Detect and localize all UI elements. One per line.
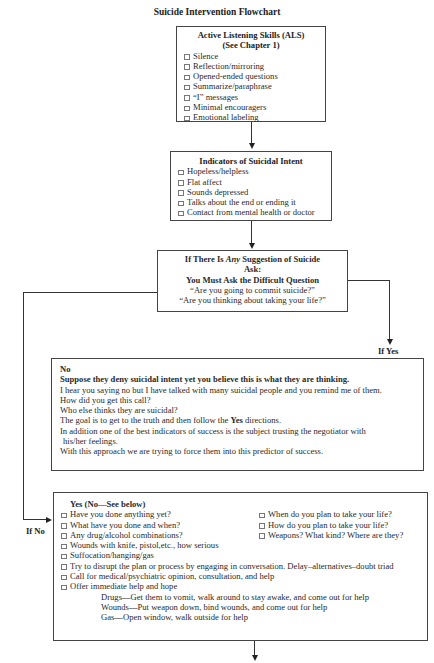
sub-item: Gas—Open window, walk outside for help xyxy=(60,612,421,622)
list-item: Summarize/paraphrase xyxy=(183,81,319,91)
list-item: Minimal encouragers xyxy=(183,102,319,112)
als-subheading: (See Chapter 1) xyxy=(183,40,319,50)
list-item: Call for medical/psychiatric opinion, co… xyxy=(60,571,421,581)
if-yes-label: If Yes xyxy=(378,346,398,356)
connector-line xyxy=(254,641,255,656)
no-goal: The goal is to get to the truth and then… xyxy=(60,415,415,425)
list-item: Silence xyxy=(183,51,319,61)
no-connector-v xyxy=(23,292,24,520)
question-heading: If There Is Any Suggestion of Suicide xyxy=(162,254,343,264)
list-item: Suffocation/hanging/gas xyxy=(60,550,421,560)
arrow-down-icon xyxy=(249,243,255,249)
question-subheading: You Must Ask the Difficult Question xyxy=(162,275,343,285)
yes-left-list: Have you done anything yet? What have yo… xyxy=(60,509,258,540)
no-connector-h2 xyxy=(23,519,47,520)
yes-list: Wounds with knife, pistol,etc., how seri… xyxy=(60,540,421,591)
yes-box: Yes (No—See below) Have you done anythin… xyxy=(53,492,428,641)
list-item: Have you done anything yet? xyxy=(60,509,258,519)
list-item: Opened-ended questions xyxy=(183,71,319,81)
list-item: Any drug/alcohol combinations? xyxy=(60,530,258,540)
als-box: Active Listening Skills (ALS) (See Chapt… xyxy=(176,26,326,122)
als-list: Silence Reflection/mirroring Opened-ende… xyxy=(183,51,319,123)
list-item: Flat affect xyxy=(177,177,325,187)
no-subheading: Suppose they deny suicidal intent yet yo… xyxy=(60,374,415,384)
list-item: Try to disrupt the plan or process by en… xyxy=(60,561,421,571)
arrow-right-icon xyxy=(46,517,52,523)
als-heading: Active Listening Skills (ALS) xyxy=(183,30,319,40)
no-line: How did you get this call? xyxy=(60,395,415,405)
no-line: his/her feelings. xyxy=(60,436,415,446)
if-no-label: If No xyxy=(26,526,45,536)
yes-connector-h xyxy=(348,280,390,281)
yes-heading: Yes (No—See below) xyxy=(60,499,421,509)
arrow-down-icon xyxy=(387,339,393,345)
no-box: No Suppose they deny suicidal intent yet… xyxy=(51,358,424,471)
no-line: With this approach we are trying to forc… xyxy=(60,446,415,456)
list-item: Weapons? What kind? Where are they? xyxy=(258,530,403,540)
no-heading: No xyxy=(60,364,415,374)
list-item: Sounds depressed xyxy=(177,187,325,197)
list-item: Reflection/mirroring xyxy=(183,61,319,71)
list-item: Talks about the end or ending it xyxy=(177,197,325,207)
list-item: Offer immediate help and hope xyxy=(60,581,421,591)
no-connector-h xyxy=(23,292,157,293)
no-line: I hear you saying no but I have talked w… xyxy=(60,385,415,395)
indicators-heading: Indicators of Suicidal Intent xyxy=(177,156,325,166)
list-item: “I” messages xyxy=(183,92,319,102)
connector-line xyxy=(251,122,252,144)
no-line: In addition one of the best indicators o… xyxy=(60,426,415,436)
list-item: How do you plan to take your life? xyxy=(258,520,403,530)
question-1: “Are you going to commit suicide?” xyxy=(162,285,343,295)
sub-item: Drugs—Get them to vomit, walk around to … xyxy=(60,592,421,602)
question-ask: Ask: xyxy=(162,264,343,274)
connector-line xyxy=(251,221,252,244)
list-item: Hopeless/helpless xyxy=(177,166,325,176)
list-item: Wounds with knife, pistol,etc., how seri… xyxy=(60,540,421,550)
no-line: Who else thinks they are suicidal? xyxy=(60,405,415,415)
yes-connector-v xyxy=(389,280,390,340)
flowchart-title: Suicide Intervention Flowchart xyxy=(0,7,434,17)
indicators-list: Hopeless/helpless Flat affect Sounds dep… xyxy=(177,166,325,217)
arrow-down-icon xyxy=(252,655,258,661)
list-item: Contact from mental health or doctor xyxy=(177,207,325,217)
question-box: If There Is Any Suggestion of Suicide As… xyxy=(157,250,348,312)
indicators-box: Indicators of Suicidal Intent Hopeless/h… xyxy=(170,151,332,221)
list-item: What have you done and when? xyxy=(60,520,258,530)
sub-item: Wounds—Put weapon down, bind wounds, and… xyxy=(60,602,421,612)
yes-right-list: When do you plan to take your life? How … xyxy=(258,509,403,540)
list-item: When do you plan to take your life? xyxy=(258,509,403,519)
yes-columns: Have you done anything yet? What have yo… xyxy=(60,509,421,540)
arrow-down-icon xyxy=(249,143,255,149)
question-2: “Are you thinking about taking your life… xyxy=(162,295,343,305)
